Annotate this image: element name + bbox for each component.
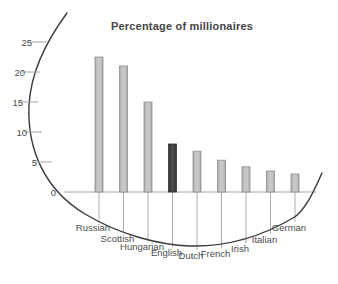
bar bbox=[218, 160, 226, 192]
category-label: French bbox=[201, 248, 231, 259]
bar bbox=[291, 174, 299, 192]
category-label: English bbox=[151, 247, 182, 258]
category-label: Russian bbox=[76, 222, 110, 233]
y-tick-label: 10 bbox=[16, 127, 27, 138]
y-tick-label: 0 bbox=[51, 187, 56, 198]
bar bbox=[267, 171, 275, 192]
bar bbox=[144, 102, 152, 192]
category-labels: RussianScottishHungarianEnglishDutchFren… bbox=[76, 222, 306, 261]
category-label: German bbox=[272, 222, 306, 233]
chart-canvas: 0510152025 RussianScottishHungarianEngli… bbox=[0, 0, 338, 284]
chart-title: Percentage of millionaires bbox=[111, 20, 253, 32]
millionaires-bar-chart: 0510152025 RussianScottishHungarianEngli… bbox=[0, 0, 338, 284]
category-label: Italian bbox=[252, 234, 277, 245]
y-tick-label: 15 bbox=[12, 97, 23, 108]
y-tick-label: 5 bbox=[32, 157, 37, 168]
y-tick-label: 25 bbox=[21, 37, 32, 48]
bars-group bbox=[95, 57, 299, 192]
y-axis-ticks: 0510152025 bbox=[12, 37, 56, 198]
category-label: Dutch bbox=[179, 250, 204, 261]
bar bbox=[193, 151, 201, 192]
y-tick-label: 20 bbox=[14, 67, 25, 78]
bar bbox=[120, 66, 128, 192]
category-label: Irish bbox=[231, 243, 249, 254]
bar bbox=[95, 57, 103, 192]
bar bbox=[169, 144, 177, 192]
bar bbox=[242, 167, 250, 192]
axis-curve bbox=[29, 13, 322, 246]
